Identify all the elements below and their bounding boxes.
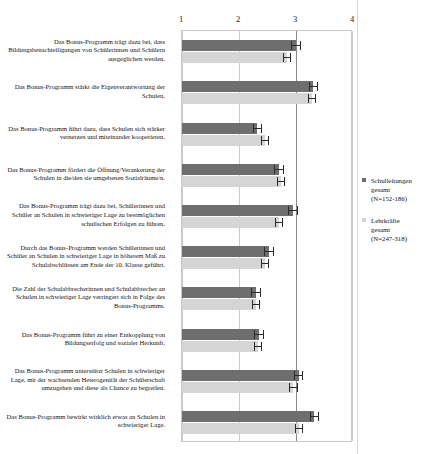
legend-label-line: Lehrkräfte <box>371 216 425 225</box>
bar <box>182 287 256 298</box>
x-tick-label: 3 <box>293 14 297 24</box>
category-labels: Das Bonus-Programm trägt dazu bei, dass … <box>0 30 173 442</box>
error-bar-cap-right <box>273 247 274 256</box>
bar-group <box>182 40 351 64</box>
error-bar-cap-right <box>302 371 303 380</box>
legend-divider <box>357 0 358 454</box>
category-label: Das Bonus-Programm führt dazu, dass Schu… <box>0 125 165 142</box>
gridline <box>352 31 353 441</box>
error-bar-cap-right <box>261 342 262 351</box>
bar-slot <box>182 258 351 269</box>
legend-entry[interactable]: Schulleitungengesamt(N=152-186) <box>362 176 425 204</box>
bar-slot <box>182 246 351 257</box>
bar-slot <box>182 52 351 63</box>
bar <box>182 164 279 175</box>
bar-group <box>182 287 351 311</box>
bar <box>182 382 293 393</box>
category-label: Das Bonus-Programm fördert die Öffnung/V… <box>0 166 165 183</box>
bar-slot <box>182 176 351 187</box>
legend-label-line: gesamt <box>371 225 425 234</box>
bar <box>182 135 265 146</box>
error-bar-cap-right <box>300 41 301 50</box>
x-axis: 1234 <box>181 14 352 30</box>
legend-entry[interactable]: Lehrkräftegesamt(N=247-318) <box>362 216 425 244</box>
bar <box>182 40 296 51</box>
bar-group <box>182 164 351 188</box>
bar-slot <box>182 411 351 422</box>
bar <box>182 423 299 434</box>
bar <box>182 329 259 340</box>
bar-slot <box>182 205 351 216</box>
legend-label-line: (N=152-186) <box>371 194 425 203</box>
plot-area <box>181 30 352 442</box>
category-label: Die Zahl der Schulabbrecherinnen und Sch… <box>0 285 165 311</box>
error-bar-cap-right <box>284 177 285 186</box>
category-label: Das Bonus-Programm trägt dazu bei, Schül… <box>0 202 165 228</box>
error-bar-cap-right <box>268 259 269 268</box>
bar <box>182 217 279 228</box>
bar <box>182 370 299 381</box>
bar <box>182 411 314 422</box>
category-label: Durch das Bonus-Programm werden Schüleri… <box>0 244 165 270</box>
bar <box>182 205 293 216</box>
bar <box>182 176 281 187</box>
bar <box>182 93 312 104</box>
legend-swatch-icon <box>362 178 366 182</box>
bar <box>182 258 265 269</box>
error-bar-cap-right <box>260 288 261 297</box>
x-tick-label: 2 <box>236 14 240 24</box>
bar <box>182 299 256 310</box>
legend-label-line: Schulleitungen <box>371 176 425 185</box>
bar-slot <box>182 423 351 434</box>
bar-slot <box>182 370 351 381</box>
error-bar-cap-right <box>283 165 284 174</box>
bar-slot <box>182 135 351 146</box>
bar-slot <box>182 341 351 352</box>
category-label: Das Bonus-Programm stärkt die Eigenveran… <box>0 83 165 100</box>
x-tick-label: 4 <box>350 14 354 24</box>
error-bar-cap-right <box>297 206 298 215</box>
error-bar-cap-right <box>268 136 269 145</box>
bar-slot <box>182 164 351 175</box>
bar-slot <box>182 217 351 228</box>
bar <box>182 123 257 134</box>
bar-slot <box>182 40 351 51</box>
legend-label-line: gesamt <box>371 185 425 194</box>
legend-label-line: (N=247-318) <box>371 234 425 243</box>
error-bar-cap-right <box>318 412 319 421</box>
error-bar-cap-right <box>315 94 316 103</box>
bar-slot <box>182 123 351 134</box>
category-label: Das Bonus-Programm unterstützt Schulen i… <box>0 367 165 393</box>
category-label: Das Bonus-Programm bewirkt wirklich etwa… <box>0 413 165 430</box>
bar-group <box>182 329 351 353</box>
bar-group <box>182 123 351 147</box>
bar <box>182 246 269 257</box>
bar-group <box>182 411 351 435</box>
bar-group <box>182 205 351 229</box>
bar-slot <box>182 81 351 92</box>
category-label: Das Bonus-Programm trägt dazu bei, dass … <box>0 38 165 64</box>
bar-slot <box>182 329 351 340</box>
bar-slot <box>182 93 351 104</box>
bar-group <box>182 370 351 394</box>
bar-slot <box>182 287 351 298</box>
x-tick-label: 1 <box>179 14 183 24</box>
category-label: Das Bonus-Programm führt zu einer Entkop… <box>0 331 165 348</box>
bar-group <box>182 246 351 270</box>
bar <box>182 81 313 92</box>
bar <box>182 341 258 352</box>
bar-group <box>182 81 351 105</box>
bar-chart: 1234 Das Bonus-Programm trägt dazu bei, … <box>0 0 425 454</box>
error-bar-cap-right <box>317 82 318 91</box>
legend-swatch-icon <box>362 218 366 222</box>
error-bar-cap-right <box>263 330 264 339</box>
bar-slot <box>182 382 351 393</box>
error-bar-cap-right <box>290 53 291 62</box>
bar-rows <box>182 31 351 441</box>
chart-legend: Schulleitungengesamt(N=152-186)Lehrkräft… <box>362 176 425 255</box>
error-bar-cap-right <box>261 124 262 133</box>
error-bar-cap-right <box>259 300 260 309</box>
bar <box>182 52 287 63</box>
error-bar-cap-right <box>302 424 303 433</box>
bar-slot <box>182 299 351 310</box>
